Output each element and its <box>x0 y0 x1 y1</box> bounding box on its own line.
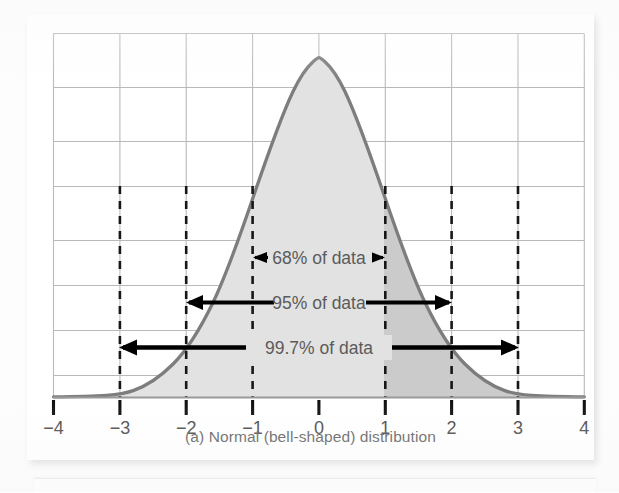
arrowhead-right-997 <box>501 340 519 356</box>
label-68-of-data: 68% of data <box>272 248 366 268</box>
next-figure-card-edge <box>34 478 596 493</box>
normal-distribution-chart: 68% of data 95% of data 99.7% of data <box>27 14 594 460</box>
arrowhead-right-95 <box>435 295 452 310</box>
label-997-of-data: 99.7% of data <box>265 338 373 358</box>
figure-caption: (a) Normal (bell-shaped) distribution <box>27 428 594 446</box>
arrowhead-left-95 <box>186 295 203 310</box>
x-axis-ticks <box>54 400 585 415</box>
label-95-of-data: 95% of data <box>272 293 366 313</box>
arrowhead-left-997 <box>119 340 137 356</box>
figure-card: 68% of data 95% of data 99.7% of data <box>27 14 594 460</box>
